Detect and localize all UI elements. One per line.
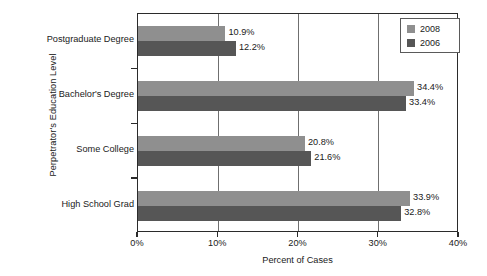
bar-2006-3 bbox=[138, 151, 311, 166]
bar-value-label: 21.6% bbox=[314, 150, 340, 165]
bar-value-label: 34.4% bbox=[417, 80, 443, 95]
legend-label: 2006 bbox=[420, 39, 440, 48]
category-label-2: Bachelor's Degree bbox=[16, 89, 134, 99]
legend: 20082006 bbox=[400, 18, 460, 53]
x-axis-tick bbox=[136, 232, 137, 237]
bar-2008-2 bbox=[138, 81, 414, 96]
legend-item-2008: 2008 bbox=[407, 22, 459, 36]
x-axis-tick-label: 0% bbox=[115, 238, 159, 248]
bar-value-label: 33.4% bbox=[409, 95, 435, 110]
x-axis-tick bbox=[457, 232, 458, 237]
bar-chart: Perpetrator's Education Level Postgradua… bbox=[0, 0, 487, 276]
legend-label: 2008 bbox=[420, 25, 440, 34]
bar-value-label: 20.8% bbox=[308, 135, 334, 150]
x-axis-tick-label: 10% bbox=[195, 238, 239, 248]
bar-2008-3 bbox=[138, 136, 305, 151]
x-axis-tick-label: 30% bbox=[356, 238, 400, 248]
x-axis-tick bbox=[377, 232, 378, 237]
legend-swatch-icon bbox=[407, 39, 415, 47]
bar-2006-2 bbox=[138, 96, 406, 111]
y-axis-category-labels: Postgraduate DegreeBachelor's DegreeSome… bbox=[12, 0, 134, 276]
bar-2008-4 bbox=[138, 191, 410, 206]
bar-value-label: 10.9% bbox=[228, 25, 254, 40]
legend-item-2006: 2006 bbox=[407, 36, 459, 50]
bar-2006-4 bbox=[138, 206, 401, 221]
bar-2008-1 bbox=[138, 26, 225, 41]
x-axis-tick bbox=[297, 232, 298, 237]
legend-swatch-icon bbox=[407, 25, 415, 33]
bar-value-label: 33.9% bbox=[413, 190, 439, 205]
bar-2006-1 bbox=[138, 41, 236, 56]
x-axis-title: Percent of Cases bbox=[137, 255, 458, 265]
category-label-4: High School Grad bbox=[16, 199, 134, 209]
x-axis-tick bbox=[217, 232, 218, 237]
category-label-3: Some College bbox=[16, 144, 134, 154]
bar-value-label: 12.2% bbox=[239, 40, 265, 55]
x-axis-tick-label: 20% bbox=[276, 238, 320, 248]
x-axis-tick-label: 40% bbox=[436, 238, 480, 248]
bar-value-label: 32.8% bbox=[404, 205, 430, 220]
category-label-1: Postgraduate Degree bbox=[16, 34, 134, 44]
